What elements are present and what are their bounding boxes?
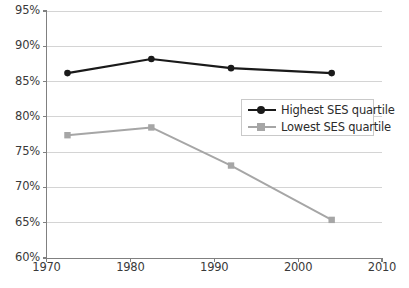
x-axis-tick-label: 1980: [100, 262, 160, 274]
y-axis-tick-label: 85%: [2, 76, 40, 88]
y-axis-tick-label: 70%: [2, 181, 40, 193]
legend-marker-circle-icon: [246, 103, 278, 117]
line-chart: 60%65%70%75%80%85%90%95% 197019801990200…: [0, 0, 409, 288]
x-axis-tick-label: 1970: [17, 262, 77, 274]
legend-item-highest-ses-quartile: Highest SES quartile: [242, 101, 375, 119]
y-axis-tick-label: 75%: [2, 146, 40, 158]
legend-label-lowest: Lowest SES quartile: [281, 120, 391, 134]
x-axis-tick-label: 2010: [352, 262, 409, 274]
legend-label-highest: Highest SES quartile: [281, 103, 395, 117]
y-axis-tick-label: 90%: [2, 40, 40, 52]
y-axis-tick-label: 65%: [2, 217, 40, 229]
series-lines: [64, 56, 335, 223]
y-axis-tick-label: 80%: [2, 111, 40, 123]
chart-plot-area: [0, 0, 409, 288]
chart-legend: Highest SES quartile Lowest SES quartile: [241, 99, 374, 136]
legend-item-lowest-ses-quartile: Lowest SES quartile: [242, 118, 375, 136]
x-axis-tick-label: 2000: [268, 262, 328, 274]
tick-marks: [43, 11, 383, 262]
legend-marker-square-icon: [246, 120, 278, 134]
y-axis-tick-label: 95%: [2, 5, 40, 17]
x-axis-tick-label: 1990: [184, 262, 244, 274]
